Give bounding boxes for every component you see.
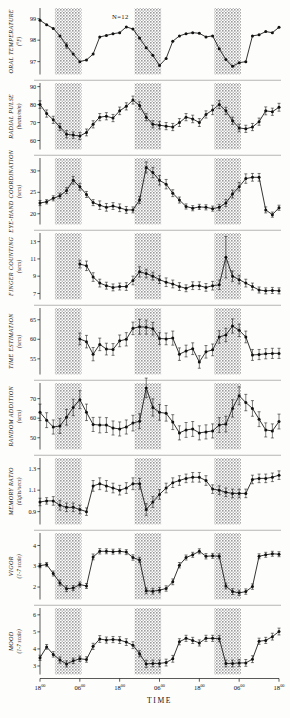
y-tick-label: 9 xyxy=(33,272,36,279)
x-tick-label: 0600 xyxy=(154,683,165,691)
y-axis-unit: (1-7 scale) xyxy=(16,629,23,654)
sample-size-annotation: N=12 xyxy=(112,13,129,20)
y-tick-label: 60 xyxy=(30,335,36,342)
panel-1: 979899ORAL TEMPERATURE(°F) xyxy=(8,8,281,75)
y-tick-label: 25 xyxy=(30,188,36,195)
panel-5: 556065TIME ESTIMATION(secs) xyxy=(8,308,281,375)
panel-8: 234VIGOR(1-7 scale) xyxy=(8,533,281,600)
y-tick-label: 1.1 xyxy=(28,486,36,493)
y-tick-label: 80 xyxy=(30,101,36,108)
error-bars xyxy=(78,319,280,368)
y-axis-title: MEMORY RATIO xyxy=(8,467,14,516)
sleep-band-2 xyxy=(135,233,162,300)
y-tick-label: 3 xyxy=(33,562,36,569)
y-tick-label: 30 xyxy=(30,167,36,174)
y-tick-label: 97 xyxy=(30,58,36,65)
x-axis-title: TIME xyxy=(147,696,172,705)
sleep-band-1 xyxy=(55,8,82,75)
y-axis-title: ORAL TEMPERATURE xyxy=(8,9,14,73)
sleep-band-2 xyxy=(135,533,162,600)
y-axis-unit: (digits/secs) xyxy=(16,477,23,505)
sleep-band-2 xyxy=(135,8,162,75)
sleep-band-1 xyxy=(55,608,82,675)
y-tick-label: 90 xyxy=(30,83,36,90)
y-tick-label: 13 xyxy=(30,238,36,245)
y-tick-label: 7 xyxy=(33,290,36,297)
y-tick-label: 3 xyxy=(33,662,36,669)
x-tick-label: 0600 xyxy=(234,683,245,691)
sleep-band-1 xyxy=(55,308,82,375)
circadian-rhythm-figure: 979899ORAL TEMPERATURE(°F)60708090RADIAL… xyxy=(0,0,290,718)
sleep-band-1 xyxy=(55,158,82,225)
data-points xyxy=(78,256,280,293)
y-axis-title: TIME ESTIMATION xyxy=(8,313,14,369)
sleep-band-1 xyxy=(55,383,82,450)
panel-2: 60708090RADIAL PULSE(beats/min) xyxy=(8,83,281,150)
y-tick-label: 11 xyxy=(30,255,36,262)
panel-7: 0.91.11.3MEMORY RATIO(digits/secs) xyxy=(8,458,281,525)
y-axis-title: RADIAL PULSE xyxy=(8,94,14,140)
y-tick-label: 65 xyxy=(30,316,36,323)
panel-4: 791113FINGER COUNTING(secs) xyxy=(8,233,281,300)
y-tick-label: 20 xyxy=(30,210,36,217)
y-axis-title: VIGOR xyxy=(8,556,14,576)
y-tick-label: 4 xyxy=(33,645,36,652)
y-axis-unit: (secs) xyxy=(16,335,23,348)
y-axis-title: RANDOM ADDITION xyxy=(8,385,14,447)
x-tick-label: 1800 xyxy=(274,683,285,691)
sleep-band-1 xyxy=(55,233,82,300)
y-tick-label: 50 xyxy=(30,434,36,441)
sleep-band-3 xyxy=(214,608,241,675)
y-tick-label: 2 xyxy=(33,583,36,590)
y-tick-label: 1.3 xyxy=(28,465,36,472)
sleep-band-1 xyxy=(55,83,82,150)
y-axis-unit: (secs) xyxy=(16,260,23,273)
y-axis-unit: (beats/min) xyxy=(16,103,23,129)
x-tick-label: 1800 xyxy=(35,683,46,691)
y-tick-label: 98 xyxy=(30,36,36,43)
y-axis-unit: (°F) xyxy=(16,36,23,46)
y-tick-label: 99 xyxy=(30,15,36,22)
sleep-band-3 xyxy=(214,8,241,75)
sleep-band-3 xyxy=(214,83,241,150)
sleep-band-2 xyxy=(135,158,162,225)
x-tick-label: 1800 xyxy=(194,683,205,691)
y-axis-unit: (1-7 scale) xyxy=(16,554,23,579)
panel-9: 3456MOOD(1-7 scale) xyxy=(8,608,281,675)
y-tick-label: 55 xyxy=(30,355,36,362)
panel-3: 202530EYE-HAND COORDINATION(secs) xyxy=(8,149,281,233)
y-axis-title: MOOD xyxy=(8,631,14,652)
y-tick-label: 4 xyxy=(33,542,36,549)
sleep-band-3 xyxy=(214,383,241,450)
sleep-band-1 xyxy=(55,458,82,525)
y-tick-label: 6 xyxy=(33,611,36,618)
y-tick-label: 60 xyxy=(30,137,36,144)
x-tick-label: 0600 xyxy=(74,683,85,691)
y-tick-label: 0.9 xyxy=(28,508,36,515)
sleep-band-2 xyxy=(135,308,162,375)
sleep-band-3 xyxy=(214,308,241,375)
y-axis-unit: (secs) xyxy=(16,185,23,198)
sleep-band-2 xyxy=(135,83,162,150)
sleep-band-2 xyxy=(135,608,162,675)
y-axis-title: EYE-HAND COORDINATION xyxy=(8,149,14,233)
y-tick-label: 70 xyxy=(30,119,36,126)
sleep-band-2 xyxy=(135,458,162,525)
y-axis-unit: (secs) xyxy=(16,410,23,423)
y-tick-label: 5 xyxy=(33,628,36,635)
y-tick-label: 60 xyxy=(30,414,36,421)
y-tick-label: 70 xyxy=(30,395,36,402)
x-tick-label: 1800 xyxy=(114,683,125,691)
sleep-band-1 xyxy=(55,533,82,600)
sleep-band-3 xyxy=(214,533,241,600)
panel-6: 506070RANDOM ADDITION(secs) xyxy=(8,378,281,449)
y-axis-title: FINGER COUNTING xyxy=(8,236,14,296)
sleep-band-3 xyxy=(214,158,241,225)
